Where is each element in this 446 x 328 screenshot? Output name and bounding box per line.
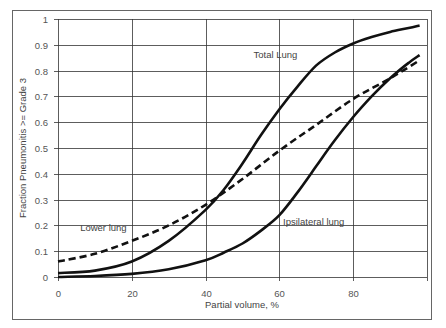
- x-axis-label: Partial volume, %: [205, 299, 279, 310]
- annotation-lower-lung: Lower lung: [80, 222, 126, 233]
- grid: [54, 19, 428, 281]
- pneumonitis-chart: 00.10.20.30.40.50.60.70.80.91020406080 T…: [0, 0, 446, 328]
- x-tick-label: 20: [127, 288, 138, 299]
- series-total-lung: [58, 26, 420, 274]
- y-tick-label: 0.8: [35, 66, 48, 77]
- annotation-total-lung: Total Lung: [254, 49, 298, 60]
- y-tick-label: 0.5: [35, 143, 48, 154]
- y-tick-label: 0.6: [35, 117, 48, 128]
- annotation-ipsilateral-lung: Ipsilateral lung: [283, 216, 344, 227]
- y-tick-label: 0.7: [35, 91, 48, 102]
- y-tick-label: 0.3: [35, 195, 48, 206]
- y-tick-label: 0.1: [35, 246, 48, 257]
- y-tick-label: 0.2: [35, 220, 48, 231]
- y-axis-label: Fraction Pneumonitis >= Grade 3: [17, 78, 28, 218]
- y-tick-label: 1: [43, 14, 48, 25]
- series-ipsilateral-lung: [58, 55, 420, 277]
- y-tick-label: 0.9: [35, 40, 48, 51]
- series-lines: [58, 26, 420, 278]
- x-tick-label: 0: [56, 288, 61, 299]
- x-tick-label: 40: [201, 288, 212, 299]
- x-tick-label: 80: [348, 288, 359, 299]
- x-tick-label: 60: [274, 288, 285, 299]
- y-tick-label: 0: [43, 272, 48, 283]
- y-tick-label: 0.4: [35, 169, 48, 180]
